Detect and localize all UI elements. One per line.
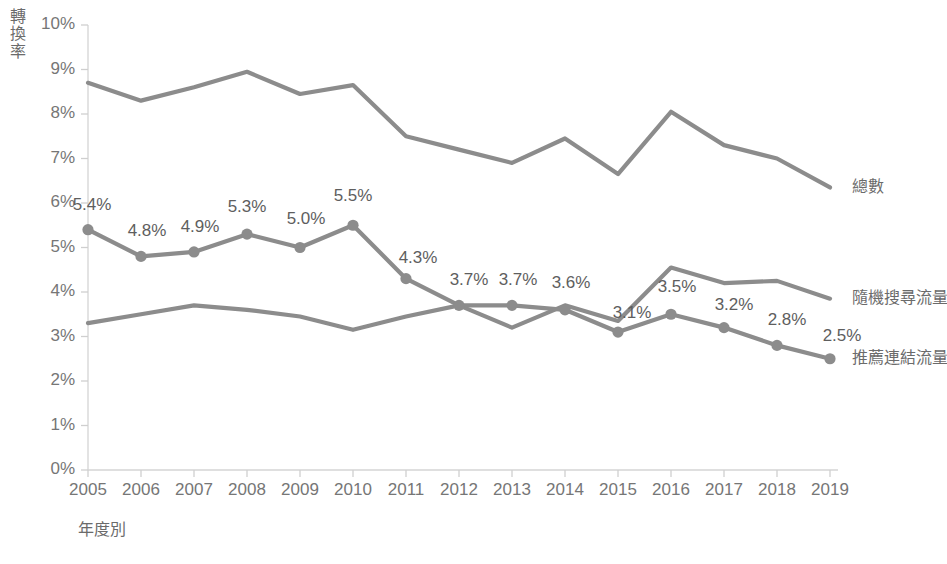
x-axis-tick-label: 2016 (652, 480, 690, 499)
series-marker (347, 220, 358, 231)
data-point-label: 5.3% (228, 197, 267, 216)
series-marker (559, 304, 570, 315)
series-marker (612, 326, 623, 337)
data-point-label: 3.6% (552, 273, 591, 292)
data-point-label: 2.5% (823, 326, 862, 345)
y-axis-tick-labels: 0%1%2%3%4%5%6%7%8%9%10% (41, 14, 75, 478)
x-axis-title: 年度別 (78, 521, 126, 538)
x-axis-tick-label: 2013 (493, 480, 531, 499)
legend-group: 總數隨機搜尋流量推薦連結流量 (852, 178, 947, 366)
data-point-label: 5.5% (334, 186, 373, 205)
series-marker (718, 322, 729, 333)
y-axis-tick-label: 2% (50, 370, 75, 389)
x-axis-tick-label: 2012 (440, 480, 478, 499)
series-markers-group (82, 220, 835, 365)
series-line-3 (88, 225, 830, 359)
chart-canvas: 0%1%2%3%4%5%6%7%8%9%10% 2005200620072008… (0, 0, 947, 564)
x-axis-tick-label: 2010 (334, 480, 372, 499)
legend-label-2: 隨機搜尋流量 (852, 289, 947, 306)
series-marker (135, 251, 146, 262)
x-axis-title-group: 年度別 (78, 521, 126, 538)
data-point-label: 5.4% (73, 195, 112, 214)
x-axis-tick-label: 2014 (546, 480, 584, 499)
data-point-label: 3.5% (658, 277, 697, 296)
data-point-label: 3.1% (613, 303, 652, 322)
x-axis-tick-labels: 2005200620072008200920102011201220132014… (69, 480, 849, 499)
y-axis-tick-label: 8% (50, 103, 75, 122)
data-point-label: 4.3% (399, 248, 438, 267)
series-marker (665, 309, 676, 320)
data-point-label: 3.7% (450, 270, 489, 289)
series-marker (82, 224, 93, 235)
x-axis-tick-label: 2019 (811, 480, 849, 499)
data-point-label: 4.9% (181, 217, 220, 236)
series-lines-group (88, 72, 830, 359)
series-marker (294, 242, 305, 253)
y-axis-tick-label: 4% (50, 281, 75, 300)
series-marker (824, 353, 835, 364)
series-line-1 (88, 72, 830, 188)
x-axis-tick-label: 2006 (122, 480, 160, 499)
legend-label-1: 總數 (852, 178, 884, 195)
x-axis-tick-label: 2015 (599, 480, 637, 499)
y-axis-tick-label: 1% (50, 415, 75, 434)
x-axis-tick-label: 2017 (705, 480, 743, 499)
x-axis-tick-label: 2009 (281, 480, 319, 499)
series-marker (241, 229, 252, 240)
series-marker (453, 300, 464, 311)
x-axis-tick-label: 2005 (69, 480, 107, 499)
y-axis-tick-label: 0% (50, 459, 75, 478)
data-point-label: 3.2% (715, 295, 754, 314)
x-axis-tick-label: 2007 (175, 480, 213, 499)
data-point-label: 5.0% (287, 209, 326, 228)
series-marker (506, 300, 517, 311)
legend-label-3: 推薦連結流量 (852, 349, 947, 366)
y-axis-tick-label: 10% (41, 14, 75, 33)
series-marker (400, 273, 411, 284)
x-axis-tick-label: 2018 (758, 480, 796, 499)
x-axis-tick-label: 2011 (388, 480, 425, 499)
data-point-labels: 5.4%4.8%4.9%5.3%5.0%5.5%4.3%3.7%3.7%3.6%… (73, 186, 862, 345)
data-point-label: 3.7% (499, 270, 538, 289)
y-axis-tick-label: 9% (50, 59, 75, 78)
y-axis-tick-label: 7% (50, 148, 75, 167)
y-axis-tick-label: 6% (50, 192, 75, 211)
y-axis-tick-label: 3% (50, 326, 75, 345)
conversion-rate-line-chart: 轉 換 率 0%1%2%3%4%5%6%7%8%9%10% 2005200620… (0, 0, 947, 564)
x-axis-tick-label: 2008 (228, 480, 266, 499)
data-point-label: 4.8% (128, 221, 167, 240)
y-axis-tick-label: 5% (50, 237, 75, 256)
series-marker (188, 246, 199, 257)
data-point-label: 2.8% (768, 310, 807, 329)
series-marker (771, 340, 782, 351)
